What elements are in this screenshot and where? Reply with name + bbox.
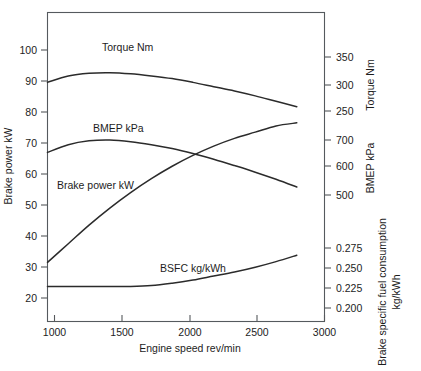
plot-frame	[48, 13, 325, 322]
tick-label: 0.275	[336, 242, 362, 254]
left-axis-ticks	[41, 50, 48, 298]
engine-performance-chart: 100 90 80 70 60 50 40 30 20 Brake power …	[0, 0, 421, 371]
tick-label: 350	[336, 51, 354, 63]
tick-label: 0.225	[336, 282, 362, 294]
tick-label: 60	[25, 168, 37, 180]
tick-label: 0.200	[336, 302, 362, 314]
tick-label: 100	[19, 44, 37, 56]
tick-label: 1000	[43, 326, 67, 338]
x-axis: 1000 1500 2000 2500 3000 Engine speed re…	[43, 315, 337, 354]
tick-label: 1500	[110, 326, 134, 338]
tick-label: 30	[25, 261, 37, 273]
right-axis-title-bsfc-line2: kg/kWh	[390, 274, 402, 309]
right-axis-title-bmep: BMEP kPa	[364, 143, 376, 194]
tick-label: 80	[25, 106, 37, 118]
left-axis-brake-power: 100 90 80 70 60 50 40 30 20 Brake power …	[2, 44, 48, 304]
right-axis-title-bsfc-line1: Brake specific fuel consumption	[376, 218, 388, 366]
tick-label: 90	[25, 75, 37, 87]
series-annotation-torque: Torque Nm	[102, 41, 154, 53]
tick-label: 300	[336, 79, 354, 91]
right-axis-torque: 350 300 250 Torque Nm	[325, 51, 377, 117]
left-axis-tick-labels: 100 90 80 70 60 50 40 30 20	[19, 44, 37, 304]
right-axis-bmep: 700 600 500 BMEP kPa	[325, 134, 377, 201]
tick-label: 50	[25, 199, 37, 211]
x-axis-title: Engine speed rev/min	[139, 342, 241, 354]
tick-label: 700	[336, 134, 354, 146]
tick-label: 600	[336, 160, 354, 172]
left-axis-title: Brake power kW	[2, 127, 14, 204]
series-annotation-bsfc: BSFC kg/kWh	[160, 262, 226, 274]
tick-label: 40	[25, 230, 37, 242]
tick-label: 70	[25, 137, 37, 149]
tick-label: 20	[25, 292, 37, 304]
tick-label: 3000	[313, 326, 337, 338]
curve-brake-power	[48, 123, 297, 263]
right-axis-title-torque: Torque Nm	[364, 59, 376, 111]
tick-label: 250	[336, 105, 354, 117]
tick-label: 500	[336, 189, 354, 201]
tick-label: 2000	[178, 326, 202, 338]
right-axis-bsfc: 0.275 0.250 0.225 0.200 Brake specific f…	[325, 218, 403, 366]
tick-label: 0.250	[336, 262, 362, 274]
curve-torque	[48, 73, 297, 107]
chart-svg: 100 90 80 70 60 50 40 30 20 Brake power …	[0, 0, 421, 371]
series-annotation-brake-power: Brake power kW	[57, 179, 134, 191]
series-annotation-bmep: BMEP kPa	[93, 122, 144, 134]
tick-label: 2500	[245, 326, 269, 338]
